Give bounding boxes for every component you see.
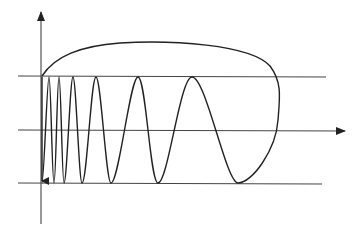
diagram-canvas xyxy=(0,0,356,234)
upper-bound-line xyxy=(18,76,326,77)
x-axis xyxy=(18,130,345,131)
oscillating-curve xyxy=(42,42,280,183)
lower-bound-line xyxy=(18,183,322,184)
